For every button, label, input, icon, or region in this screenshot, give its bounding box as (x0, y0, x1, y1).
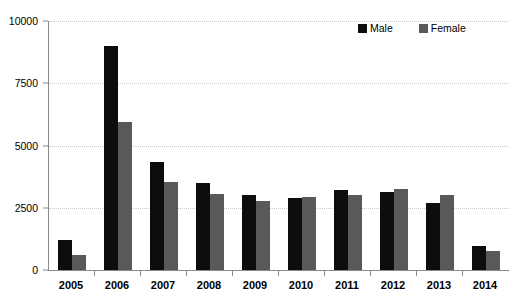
x-tick-mark (94, 271, 95, 276)
plot-area (48, 21, 509, 271)
bar-male-2008[interactable] (196, 183, 210, 270)
bar-group-2008 (196, 21, 224, 270)
y-tick-label: 10000 (9, 15, 38, 27)
y-tick-label: 2500 (15, 202, 38, 214)
bar-female-2007[interactable] (164, 182, 178, 270)
x-tick-mark (140, 271, 141, 276)
x-tick-label-2008: 2008 (197, 279, 221, 291)
bar-female-2014[interactable] (486, 251, 500, 270)
bar-group-2010 (288, 21, 316, 270)
x-tick-label-2010: 2010 (289, 279, 313, 291)
bar-group-2013 (426, 21, 454, 270)
y-axis: 025005000750010000 (0, 21, 48, 270)
x-tick-label-2012: 2012 (381, 279, 405, 291)
bar-male-2005[interactable] (58, 240, 72, 270)
y-tick-label: 7500 (15, 77, 38, 89)
bar-male-2007[interactable] (150, 162, 164, 270)
bar-male-2012[interactable] (380, 192, 394, 270)
bar-male-2009[interactable] (242, 195, 256, 270)
bar-male-2011[interactable] (334, 190, 348, 270)
bar-chart: MaleFemale 025005000750010000 2005200620… (0, 0, 513, 303)
x-tick-label-2009: 2009 (243, 279, 267, 291)
bar-female-2006[interactable] (118, 122, 132, 270)
bar-group-2011 (334, 21, 362, 270)
x-axis: 2005200620072008200920102011201220132014 (48, 271, 508, 301)
bar-female-2013[interactable] (440, 195, 454, 270)
bar-female-2011[interactable] (348, 195, 362, 270)
bar-male-2014[interactable] (472, 246, 486, 270)
bar-male-2013[interactable] (426, 203, 440, 270)
bar-female-2012[interactable] (394, 189, 408, 270)
bar-group-2009 (242, 21, 270, 270)
x-tick-mark (462, 271, 463, 276)
x-tick-mark (416, 271, 417, 276)
y-tick-label: 0 (32, 264, 38, 276)
bar-female-2010[interactable] (302, 197, 316, 270)
x-tick-mark (232, 271, 233, 276)
x-tick-label-2014: 2014 (473, 279, 497, 291)
x-tick-label-2006: 2006 (105, 279, 129, 291)
bar-male-2010[interactable] (288, 198, 302, 270)
bar-group-2005 (58, 21, 86, 270)
x-tick-label-2013: 2013 (427, 279, 451, 291)
bar-series-container (49, 21, 509, 270)
bar-group-2014 (472, 21, 500, 270)
x-tick-mark (324, 271, 325, 276)
bar-male-2006[interactable] (104, 46, 118, 270)
bar-female-2005[interactable] (72, 255, 86, 270)
bar-group-2006 (104, 21, 132, 270)
x-tick-mark (278, 271, 279, 276)
x-tick-label-2007: 2007 (151, 279, 175, 291)
x-tick-mark (186, 271, 187, 276)
bar-group-2012 (380, 21, 408, 270)
bar-female-2009[interactable] (256, 201, 270, 270)
bar-group-2007 (150, 21, 178, 270)
x-tick-label-2011: 2011 (335, 279, 359, 291)
x-tick-label-2005: 2005 (59, 279, 83, 291)
bar-female-2008[interactable] (210, 194, 224, 270)
x-tick-mark (370, 271, 371, 276)
y-tick-label: 5000 (15, 140, 38, 152)
